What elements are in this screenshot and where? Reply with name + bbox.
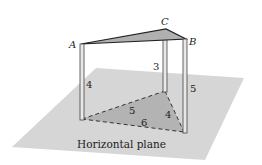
height-b-label: 5 xyxy=(190,83,196,94)
edge-ab-label: 6 xyxy=(141,117,147,128)
edge-ac-label: 5 xyxy=(129,105,135,116)
height-a-label: 4 xyxy=(86,79,92,90)
point-a-label: A xyxy=(68,39,76,50)
prism-diagram: A C B 4 3 5 5 4 6 Horizontal plane xyxy=(0,0,262,165)
point-b-label: B xyxy=(188,36,196,47)
point-c-label: C xyxy=(161,16,169,27)
plane-label: Horizontal plane xyxy=(77,138,166,150)
height-c-label: 3 xyxy=(153,61,159,72)
edge-cb-label: 4 xyxy=(165,109,171,120)
top-triangle xyxy=(81,29,186,44)
pillar-b xyxy=(183,39,187,133)
pillar-a xyxy=(80,44,84,120)
